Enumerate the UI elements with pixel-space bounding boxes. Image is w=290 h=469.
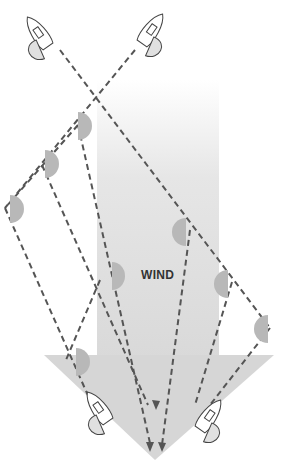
boat-top-left-icon — [12, 13, 59, 64]
boat-top-right-icon — [131, 10, 178, 61]
sailing-tack-diagram — [0, 0, 290, 469]
wind-label: WIND — [141, 268, 174, 282]
